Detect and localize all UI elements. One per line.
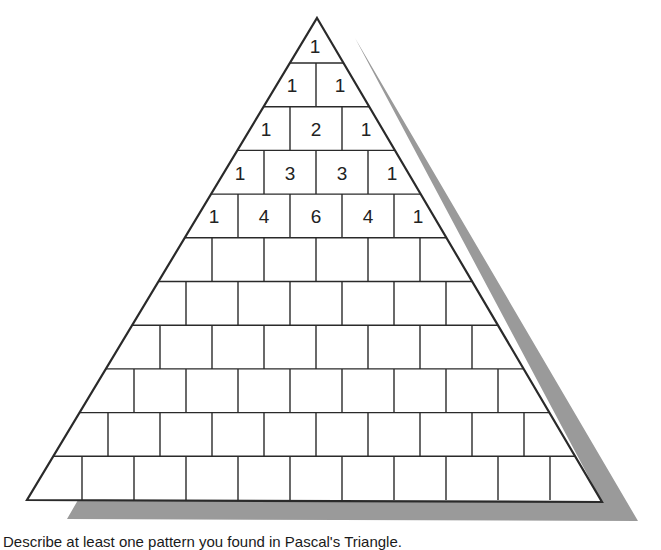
cell-value: 1 bbox=[335, 75, 346, 96]
question-prompt: Describe at least one pattern you found … bbox=[3, 533, 402, 550]
cell-value: 1 bbox=[261, 119, 272, 140]
cell-value: 1 bbox=[310, 36, 321, 57]
cell-value: 1 bbox=[235, 163, 246, 184]
cell-value: 1 bbox=[387, 163, 398, 184]
cell-value: 4 bbox=[259, 206, 270, 227]
cell-value: 6 bbox=[311, 206, 322, 227]
cell-value: 3 bbox=[285, 163, 296, 184]
cell-value: 1 bbox=[287, 75, 298, 96]
cell-value: 3 bbox=[337, 163, 348, 184]
cell-value: 1 bbox=[361, 119, 372, 140]
triangle-body bbox=[27, 18, 602, 502]
cell-value: 2 bbox=[311, 119, 322, 140]
cell-value: 1 bbox=[209, 206, 220, 227]
cell-value: 4 bbox=[363, 206, 374, 227]
cell-value: 1 bbox=[413, 206, 424, 227]
